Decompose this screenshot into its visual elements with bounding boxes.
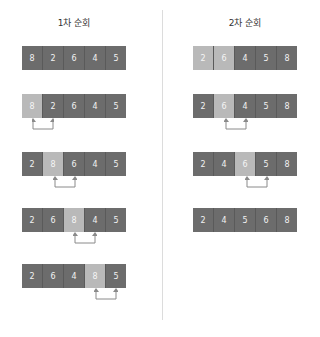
swap-arrow-icon <box>94 288 118 302</box>
array-cell: 8 <box>277 152 297 176</box>
array-cell: 2 <box>43 46 64 70</box>
array-cell-highlighted: 2 <box>193 46 214 70</box>
array-row: 8 2 6 4 5 <box>22 94 126 118</box>
array-cell-highlighted: 6 <box>214 94 235 118</box>
array-cell: 4 <box>85 208 106 232</box>
array-cell: 2 <box>22 208 43 232</box>
array-cell: 5 <box>235 208 256 232</box>
array-cell: 4 <box>85 94 106 118</box>
array-cell: 5 <box>106 264 126 288</box>
array-cell: 2 <box>193 94 214 118</box>
pass-1-title: 1차 순회 <box>22 16 126 29</box>
array-row: 2 6 4 5 8 <box>193 46 297 70</box>
array-cell-highlighted: 8 <box>22 94 43 118</box>
array-row: 2 4 6 5 8 <box>193 152 297 176</box>
array-cell: 6 <box>43 264 64 288</box>
array-cell: 5 <box>256 46 277 70</box>
swap-arrow-icon <box>73 232 97 246</box>
array-cell: 4 <box>235 46 256 70</box>
array-cell: 6 <box>64 46 85 70</box>
array-cell: 6 <box>43 208 64 232</box>
array-row: 2 6 4 8 5 <box>22 264 126 288</box>
array-cell: 5 <box>256 94 277 118</box>
array-cell-highlighted: 8 <box>64 208 85 232</box>
array-cell: 2 <box>22 264 43 288</box>
array-cell-highlighted: 6 <box>235 152 256 176</box>
array-cell: 4 <box>214 208 235 232</box>
array-cell-highlighted: 8 <box>85 264 106 288</box>
array-cell: 4 <box>85 152 106 176</box>
array-cell: 6 <box>64 94 85 118</box>
array-cell: 8 <box>22 46 43 70</box>
array-cell: 4 <box>214 152 235 176</box>
array-cell: 4 <box>85 46 106 70</box>
array-cell: 5 <box>256 152 277 176</box>
array-cell: 6 <box>256 208 277 232</box>
array-cell: 4 <box>64 264 85 288</box>
array-cell: 5 <box>106 152 126 176</box>
array-cell: 5 <box>106 46 126 70</box>
array-cell-highlighted: 6 <box>214 46 235 70</box>
array-cell: 8 <box>277 46 297 70</box>
array-cell: 5 <box>106 94 126 118</box>
pass-2-title: 2차 순회 <box>193 16 297 29</box>
array-cell: 2 <box>193 208 214 232</box>
array-cell: 8 <box>277 94 297 118</box>
array-row: 8 2 6 4 5 <box>22 46 126 70</box>
swap-arrow-icon <box>245 176 269 190</box>
swap-arrow-icon <box>53 176 77 190</box>
array-row: 2 6 4 5 8 <box>193 94 297 118</box>
array-cell: 2 <box>22 152 43 176</box>
array-cell-highlighted: 8 <box>43 152 64 176</box>
column-divider <box>162 10 163 320</box>
array-cell: 2 <box>193 152 214 176</box>
array-row: 2 8 6 4 5 <box>22 152 126 176</box>
array-cell: 5 <box>106 208 126 232</box>
array-cell: 6 <box>64 152 85 176</box>
swap-arrow-icon <box>32 118 54 132</box>
array-row: 2 4 5 6 8 <box>193 208 297 232</box>
swap-arrow-icon <box>224 118 248 132</box>
array-cell: 8 <box>277 208 297 232</box>
array-cell: 4 <box>235 94 256 118</box>
array-row: 2 6 8 4 5 <box>22 208 126 232</box>
array-cell: 2 <box>43 94 64 118</box>
